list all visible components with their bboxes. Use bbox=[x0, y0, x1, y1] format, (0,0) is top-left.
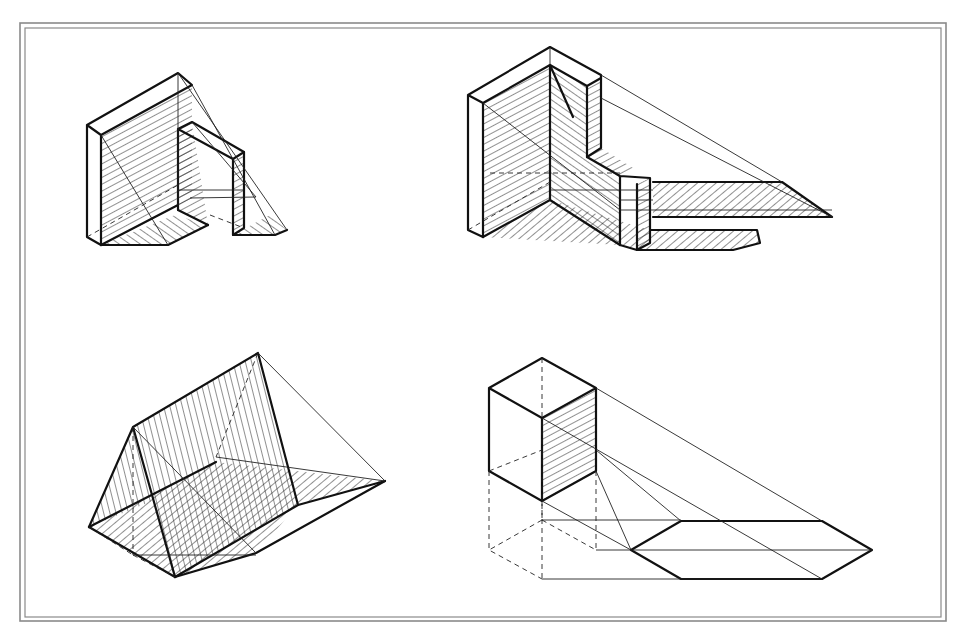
figure-triangular-prism bbox=[89, 353, 385, 577]
figure-l-shaped-wall bbox=[468, 47, 832, 250]
post-face bbox=[637, 178, 650, 250]
drawing-sheet bbox=[0, 0, 963, 644]
figure-wall-with-frame bbox=[87, 73, 287, 245]
post-side-face bbox=[587, 78, 601, 157]
frame-post-face bbox=[233, 152, 244, 235]
figure-cube bbox=[489, 358, 872, 579]
